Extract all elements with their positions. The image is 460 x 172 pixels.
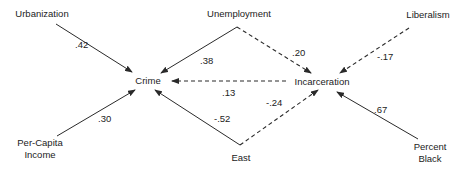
coefficient-east-crime: -.52 xyxy=(214,113,230,124)
node-label-line: Unemployment xyxy=(207,8,271,19)
node-east: East xyxy=(231,152,250,163)
edge-liberalism-incarceration xyxy=(340,28,409,73)
edge-unemployment-crime xyxy=(161,27,237,73)
node-incarceration: Incarceration xyxy=(295,76,350,87)
node-label-line: Crime xyxy=(135,75,160,86)
coefficient-east-incarceration: -.24 xyxy=(266,97,282,108)
edge-per-capita-income-crime xyxy=(57,90,135,136)
node-label-line: Percent xyxy=(414,141,447,152)
node-label-line: Liberalism xyxy=(406,9,449,20)
path-diagram: .42.38.20-.17.13.30-.52-.24.67 Urbanizat… xyxy=(0,0,460,172)
coefficient-per-capita-income-crime: .30 xyxy=(98,113,111,124)
node-label-line: Per-Capita xyxy=(17,137,63,148)
node-label-line: Income xyxy=(24,149,55,160)
node-urbanization: Urbanization xyxy=(15,8,68,19)
coefficient-incarceration-crime: .13 xyxy=(222,87,235,98)
node-label-line: Black xyxy=(418,153,441,164)
node-label-line: East xyxy=(231,152,250,163)
coefficient-unemployment-incarceration: .20 xyxy=(292,47,305,58)
node-unemployment: Unemployment xyxy=(207,8,271,19)
node-liberalism: Liberalism xyxy=(406,9,449,20)
edge-urbanization-crime xyxy=(56,24,132,72)
node-percent-black: PercentBlack xyxy=(414,141,447,164)
node-crime: Crime xyxy=(135,75,160,86)
edges-layer xyxy=(56,24,418,145)
node-label-line: Urbanization xyxy=(15,8,68,19)
coefficient-unemployment-crime: .38 xyxy=(200,55,213,66)
node-per-capita-income: Per-CapitaIncome xyxy=(17,137,63,160)
edge-percent-black-incarceration xyxy=(337,92,418,139)
coefficient-urbanization-crime: .42 xyxy=(75,39,88,50)
coefficient-percent-black-incarceration: .67 xyxy=(374,104,387,115)
coefficient-liberalism-incarceration: -.17 xyxy=(377,51,393,62)
node-label-line: Incarceration xyxy=(295,76,350,87)
